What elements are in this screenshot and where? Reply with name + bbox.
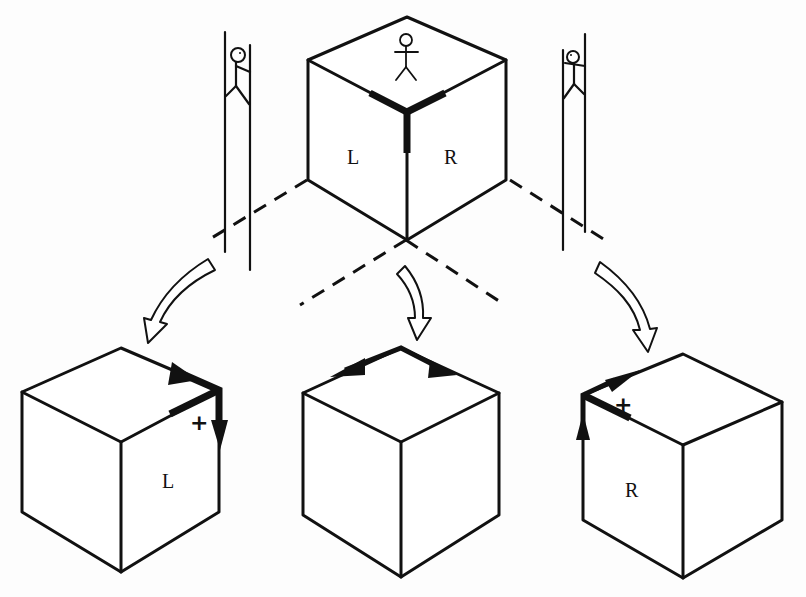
curved-arrow-icon <box>397 266 431 340</box>
transition-arrows <box>144 259 657 352</box>
face-label-r: R <box>625 479 639 501</box>
top-cube: L R <box>308 17 506 240</box>
plus-mark: + <box>614 392 632 417</box>
middle-cube <box>303 348 499 577</box>
plus-mark: + <box>190 410 208 435</box>
curved-arrow-icon <box>144 259 215 343</box>
face-label-l: L <box>162 470 174 492</box>
stick-figure-icon <box>564 51 585 98</box>
stick-figure-icon <box>226 48 250 104</box>
face-label-r: R <box>444 146 458 168</box>
face-label-l: L <box>347 146 359 168</box>
diagram-svg: L R + L + <box>0 0 806 597</box>
diagram-canvas: L R + L + <box>0 0 806 597</box>
left-cube: + L <box>22 348 228 572</box>
right-wall-observer <box>563 34 585 250</box>
left-wall-observer <box>225 32 250 270</box>
right-cube: + R <box>576 354 782 578</box>
curved-arrow-icon <box>595 262 657 352</box>
